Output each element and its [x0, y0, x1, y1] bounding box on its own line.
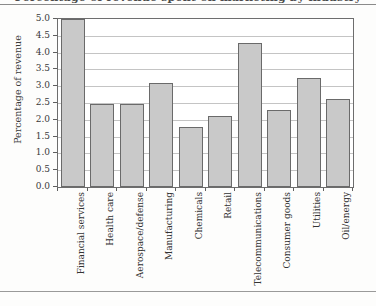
bar — [267, 110, 291, 187]
bar — [208, 116, 232, 187]
x-axis-tick-label: Chemicals — [194, 192, 204, 292]
y-axis-tick-label: 0.5 — [16, 165, 50, 174]
bar — [297, 78, 321, 187]
y-axis-tick-label: 3.0 — [16, 81, 50, 90]
x-axis-tick-label: Oil/energy — [341, 192, 351, 292]
x-axis-tick-label: Retail — [223, 192, 233, 292]
x-axis-tick-label: Consumer goods — [282, 192, 292, 292]
y-axis-tick-label: 5.0 — [16, 14, 50, 23]
bar — [149, 83, 173, 187]
bar-series — [58, 19, 353, 187]
bar — [120, 104, 144, 187]
bar — [90, 104, 114, 187]
y-axis-tick-label: 1.5 — [16, 132, 50, 141]
x-axis-tick-label: Telecommunications — [253, 192, 263, 292]
bar — [238, 43, 262, 187]
x-axis-tick-label: Manufacturing — [164, 192, 174, 292]
x-axis-tick-label: Aerospace/defense — [135, 192, 145, 292]
x-axis-tick-label: Financial services — [76, 192, 86, 292]
figure-container: Percentage of revenue spent on marketing… — [0, 0, 376, 306]
y-axis-tick-label: 3.5 — [16, 64, 50, 73]
y-axis-tick-label: 4.0 — [16, 48, 50, 57]
x-axis-tick-label: Health care — [105, 192, 115, 292]
bar — [179, 127, 203, 187]
plot-area — [57, 18, 354, 188]
x-axis-tick-label: Utilities — [312, 192, 322, 292]
y-axis-tick-label: 0.0 — [16, 182, 50, 191]
page-rule-top — [0, 4, 376, 5]
bar — [61, 19, 85, 187]
y-axis-tick-label: 2.5 — [16, 98, 50, 107]
y-axis-tick-label: 2.0 — [16, 115, 50, 124]
bar — [326, 99, 350, 187]
y-axis-tick-label: 4.5 — [16, 31, 50, 40]
y-axis-tick-label: 1.0 — [16, 148, 50, 157]
